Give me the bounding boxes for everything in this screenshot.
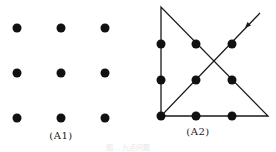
figure-caption: 图… 九点问题 — [106, 142, 150, 152]
dot — [228, 112, 237, 121]
dot — [101, 114, 110, 123]
dot — [157, 40, 166, 49]
dot — [228, 40, 237, 49]
dot — [192, 76, 201, 85]
dot — [57, 114, 66, 123]
dot — [192, 112, 201, 121]
dot — [13, 114, 22, 123]
dot — [57, 24, 66, 33]
panel-a2-label: (A2) — [186, 126, 209, 137]
dot — [13, 69, 22, 78]
dot — [157, 76, 166, 85]
dot — [228, 76, 237, 85]
dot — [192, 40, 201, 49]
panel-a1-dot-grid — [13, 24, 110, 123]
dot — [13, 24, 22, 33]
dot — [157, 112, 166, 121]
nine-dot-puzzle-figure — [0, 0, 276, 152]
dot — [101, 69, 110, 78]
panel-a2-solution-path — [161, 7, 268, 116]
dot — [57, 69, 66, 78]
panel-a1-label: (A1) — [49, 130, 72, 141]
dot — [101, 24, 110, 33]
solution-line — [161, 7, 268, 116]
